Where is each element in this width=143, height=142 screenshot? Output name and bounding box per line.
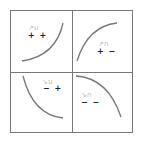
cell-bottom-right: ↘∩ − −	[73, 73, 134, 134]
sign-label: + +	[28, 32, 47, 40]
sign-label: − +	[43, 85, 62, 93]
cell-top-right: ↗∩ + −	[73, 11, 134, 72]
sign-label: + −	[97, 48, 116, 56]
cell-top-left: ↗∪ + +	[11, 11, 72, 72]
cell-bottom-left: ↘∪ − +	[11, 73, 72, 134]
sign-label: − −	[81, 99, 100, 107]
sign-chart-grid: ↗∪ + + ↗∩ + − ↘∪ − + ↘∩ − −	[10, 10, 133, 133]
curve-increasing-concave-up	[11, 11, 72, 72]
